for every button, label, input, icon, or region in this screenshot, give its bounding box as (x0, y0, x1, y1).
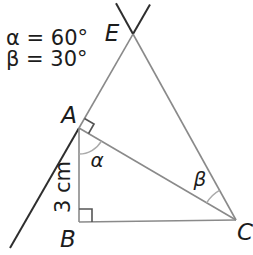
alpha-angle-label: α (90, 148, 103, 172)
segment-EC (133, 34, 236, 220)
vertex-label-A: A (59, 102, 77, 128)
beta-angle-label: β (193, 167, 207, 191)
vertex-label-B: B (60, 226, 76, 252)
line-extension-above-E-right (133, 5, 150, 35)
geometry-figure-canvas: α = 60° β = 30° E A B C α β 3 cm (0, 0, 253, 255)
side-length-label-AB: 3 cm (51, 161, 75, 213)
vertex-label-E: E (105, 20, 120, 46)
triangle-sides (79, 34, 236, 222)
segment-BC (79, 220, 236, 222)
beta-angle-arc (207, 190, 220, 203)
vertex-label-C: C (237, 219, 253, 245)
geometry-figure: α = 60° β = 30° E A B C α β 3 cm (0, 0, 253, 255)
given-beta-text: β = 30° (6, 47, 88, 71)
segment-AC (79, 128, 236, 220)
right-angle-mark-B (79, 209, 92, 222)
